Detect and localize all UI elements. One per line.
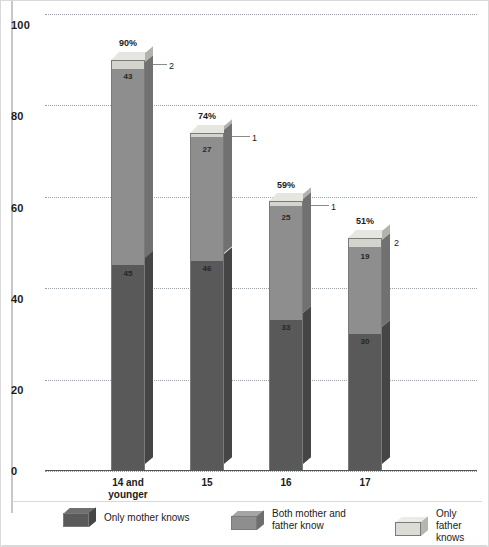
y-tick-60: 60 (11, 202, 41, 214)
total-label: 74% (184, 111, 230, 121)
segment-only-father-knows[interactable] (348, 238, 382, 247)
gridline-0 (45, 471, 477, 472)
y-tick-40: 40 (11, 293, 41, 305)
legend-swatch-both-parents-know (231, 511, 264, 530)
legend-swatch-only-mother-knows (63, 508, 96, 527)
total-label: 59% (263, 180, 309, 190)
segment-both-parents-know[interactable] (269, 206, 303, 320)
x-axis-baseline (45, 470, 477, 471)
segment-side-face (224, 247, 232, 464)
segment-side-face (382, 233, 390, 327)
value-label-mother: 33 (269, 323, 303, 332)
value-label-father: 1 (331, 202, 336, 212)
segment-only-father-knows[interactable] (111, 60, 145, 69)
x-label-16: 16 (246, 477, 326, 489)
x-label-line2: younger (88, 489, 168, 501)
chart-legend: Only mother knows Both mother and father… (13, 501, 482, 542)
y-tick-20: 20 (11, 384, 41, 396)
value-label-both: 27 (190, 145, 224, 154)
bottom-frame-line (2, 545, 487, 546)
y-tick-0: 0 (11, 465, 41, 477)
callout-line-father (232, 136, 250, 137)
value-label-father: 1 (252, 133, 257, 143)
y-tick-80: 80 (11, 110, 41, 122)
x-label-line1: 15 (167, 477, 247, 489)
segment-side-face (145, 252, 153, 464)
legend-item-only-father-knows[interactable]: Only father knows (395, 508, 482, 544)
segment-side-face (224, 124, 232, 254)
legend-item-both-parents-know[interactable]: Both mother and father know (231, 508, 346, 532)
legend-swatch-only-father-knows (395, 517, 428, 536)
x-label-line1: 14 and (88, 477, 168, 489)
segment-only-mother-knows[interactable] (111, 265, 145, 471)
value-label-father: 2 (394, 238, 399, 248)
segment-side-face (145, 55, 153, 258)
segment-both-parents-know[interactable] (111, 69, 145, 266)
total-label: 51% (342, 216, 388, 226)
value-label-mother: 46 (190, 264, 224, 273)
legend-label-line2: father know (272, 520, 346, 532)
segment-side-face (382, 320, 390, 464)
segment-side-face (303, 192, 311, 313)
x-label-line1: 17 (325, 477, 405, 489)
segment-only-mother-knows[interactable] (269, 320, 303, 471)
legend-label-both-parents-know: Both mother and father know (272, 508, 346, 532)
value-label-mother: 45 (111, 269, 145, 278)
plot-area: 43 45 90% 2 (45, 14, 477, 471)
x-label-14-and-younger: 14 and younger (88, 477, 168, 501)
segment-both-parents-know[interactable] (190, 137, 224, 260)
legend-label-line1: Only father knows (436, 508, 464, 543)
value-label-mother: 30 (348, 337, 382, 346)
segment-only-mother-knows[interactable] (348, 334, 382, 471)
x-label-17: 17 (325, 477, 405, 489)
segment-only-mother-knows[interactable] (190, 261, 224, 471)
legend-label-only-father-knows: Only father knows (436, 508, 482, 544)
value-label-both: 43 (111, 72, 145, 81)
value-label-both: 25 (269, 213, 303, 222)
legend-label-line1: Both mother and (272, 508, 346, 520)
legend-label-line1: Only mother knows (104, 512, 190, 523)
x-label-15: 15 (167, 477, 247, 489)
total-label: 90% (105, 38, 151, 48)
chart-page: 43 45 90% 2 (0, 0, 489, 547)
x-label-line1: 16 (246, 477, 326, 489)
segment-side-face (303, 306, 311, 464)
callout-line-father (153, 64, 167, 65)
legend-label-only-mother-knows: Only mother knows (104, 512, 190, 524)
legend-item-only-mother-knows[interactable]: Only mother knows (63, 508, 190, 527)
callout-line-father (311, 205, 329, 206)
left-rail-divider (11, 1, 13, 513)
value-label-both: 19 (348, 252, 382, 261)
bar-group: 43 45 90% 2 (45, 14, 477, 471)
y-tick-100: 100 (11, 19, 41, 31)
value-label-father: 2 (169, 61, 174, 71)
